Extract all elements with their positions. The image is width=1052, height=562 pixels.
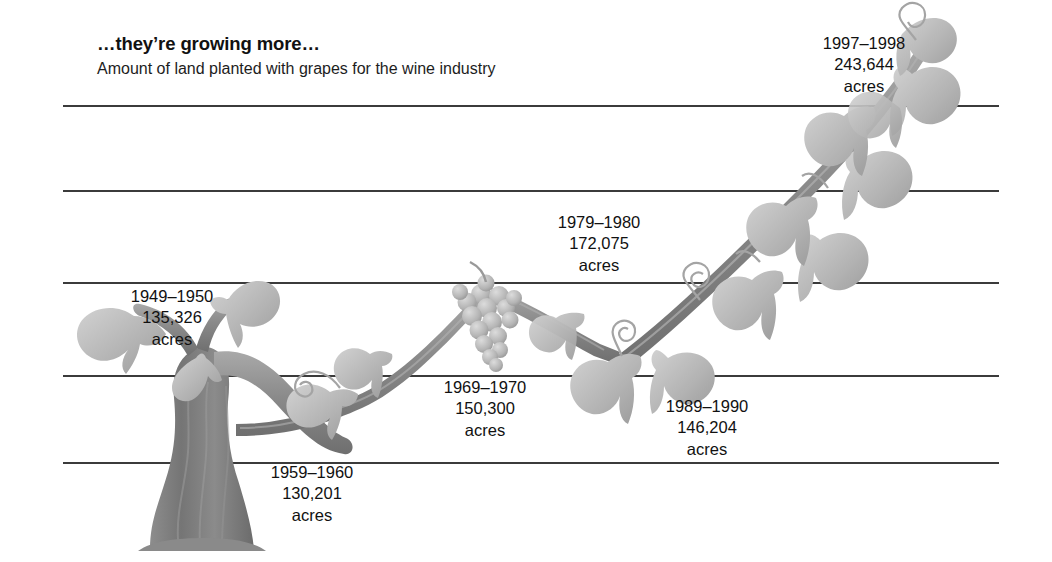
page-subtitle: Amount of land planted with grapes for t… — [97, 60, 495, 78]
gridline-2 — [63, 190, 999, 192]
datalabel-unit: acres — [92, 329, 252, 350]
datalabel-value: 243,644 — [779, 54, 949, 75]
datalabel-unit: acres — [779, 76, 949, 97]
datalabel-1979-1980: 1979–1980 172,075 acres — [514, 212, 684, 276]
datalabel-value: 172,075 — [514, 233, 684, 254]
datalabel-value: 150,300 — [405, 398, 565, 419]
gridline-5 — [63, 462, 999, 464]
grape-cluster — [452, 262, 522, 372]
datalabel-1949-1950: 1949–1950 135,326 acres — [92, 286, 252, 350]
datalabel-period: 1959–1960 — [232, 462, 392, 483]
datalabel-period: 1969–1970 — [405, 377, 565, 398]
datalabel-1997-1998: 1997–1998 243,644 acres — [779, 33, 949, 97]
gridline-3 — [63, 282, 999, 284]
title-block: …they’re growing more… Amount of land pl… — [97, 33, 495, 78]
datalabel-period: 1979–1980 — [514, 212, 684, 233]
datalabel-value: 130,201 — [232, 483, 392, 504]
datalabel-unit: acres — [405, 420, 565, 441]
datalabel-value: 146,204 — [622, 417, 792, 438]
datalabel-1969-1970: 1969–1970 150,300 acres — [405, 377, 565, 441]
page-title: …they’re growing more… — [97, 33, 495, 55]
datalabel-1989-1990: 1989–1990 146,204 acres — [622, 396, 792, 460]
datalabel-unit: acres — [232, 505, 392, 526]
wine-acreage-infographic: …they’re growing more… Amount of land pl… — [0, 0, 1052, 562]
datalabel-unit: acres — [622, 439, 792, 460]
datalabel-unit: acres — [514, 255, 684, 276]
datalabel-period: 1949–1950 — [92, 286, 252, 307]
gridline-1 — [63, 105, 999, 107]
datalabel-period: 1989–1990 — [622, 396, 792, 417]
datalabel-period: 1997–1998 — [779, 33, 949, 54]
datalabel-value: 135,326 — [92, 307, 252, 328]
datalabel-1959-1960: 1959–1960 130,201 acres — [232, 462, 392, 526]
